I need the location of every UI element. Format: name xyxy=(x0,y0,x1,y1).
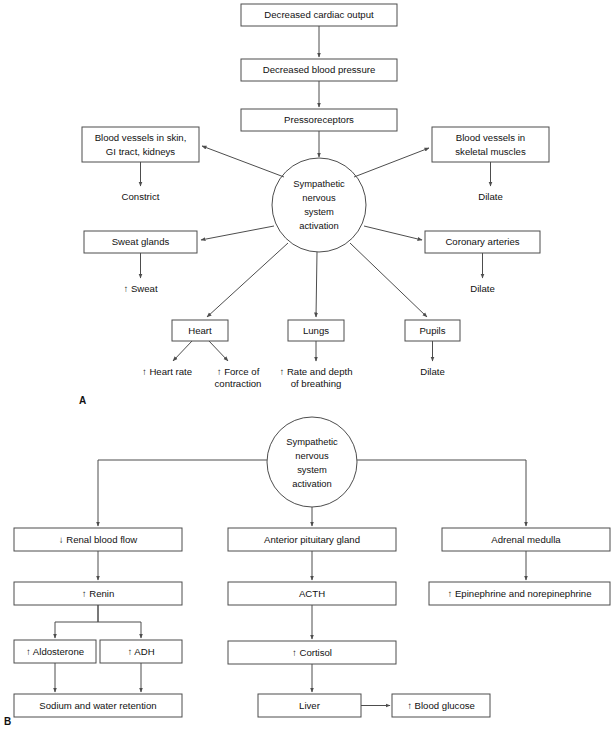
label-renin: ↑ Renin xyxy=(82,588,115,599)
label-blood-vessels-skeletal-line1: Blood vessels in xyxy=(456,132,525,143)
connector-renin-to-aldosterone xyxy=(55,605,98,638)
label-increased-heart-rate: ↑ Heart rate xyxy=(142,366,192,377)
flowchart-figure: Decreased cardiac output Decreased blood… xyxy=(0,0,613,736)
label-anterior-pituitary-gland: Anterior pituitary gland xyxy=(264,534,360,545)
connector-hub-to-blood-vessels-skeletal xyxy=(354,148,429,177)
label-renal-blood-flow: ↓ Renal blood flow xyxy=(59,534,137,545)
hub-label-line2-b: nervous xyxy=(295,450,329,461)
label-dilate-pupils: Dilate xyxy=(420,366,445,377)
hub-label-line3-a: system xyxy=(304,206,334,217)
label-blood-vessels-skeletal-line2: skeletal muscles xyxy=(455,146,526,157)
label-decreased-cardiac-output: Decreased cardiac output xyxy=(264,9,374,20)
connector-hub-to-blood-vessels-skin xyxy=(202,146,284,177)
label-decreased-blood-pressure: Decreased blood pressure xyxy=(263,64,376,75)
label-force-of-contraction-line1: ↑ Force of xyxy=(217,366,260,377)
label-constrict: Constrict xyxy=(122,191,160,202)
label-adrenal-medulla: Adrenal medulla xyxy=(491,534,561,545)
panel-letter-b: B xyxy=(4,716,11,727)
hub-circle-sympathetic-activation-b xyxy=(267,417,357,507)
connector-renin-to-adh xyxy=(98,605,141,638)
hub-label-line1-b: Sympathetic xyxy=(286,436,338,447)
label-lungs: Lungs xyxy=(303,325,329,336)
label-blood-glucose: ↑ Blood glucose xyxy=(407,700,475,711)
connector-hub-to-renal-column xyxy=(98,460,267,526)
panel-letter-a: A xyxy=(79,395,86,406)
connector-hub-to-pupils xyxy=(350,243,427,317)
label-dilate-coronary: Dilate xyxy=(470,283,495,294)
hub-label-line2-a: nervous xyxy=(302,192,336,203)
label-force-of-contraction-line2: contraction xyxy=(215,378,262,389)
label-rate-depth-breathing-line1: ↑ Rate and depth xyxy=(279,366,352,377)
label-pressoreceptors: Pressoreceptors xyxy=(284,114,354,125)
hub-label-line4-b: activation xyxy=(292,478,332,489)
label-adh: ↑ ADH xyxy=(127,646,154,657)
hub-label-line4-a: activation xyxy=(299,220,339,231)
label-liver: Liver xyxy=(299,700,321,711)
hub-circle-sympathetic-activation-a xyxy=(272,158,366,252)
hub-label-line1-a: Sympathetic xyxy=(293,178,345,189)
label-increased-sweat: ↑ Sweat xyxy=(123,283,157,294)
label-pupils: Pupils xyxy=(419,325,445,336)
connector-hub-to-sweat-glands xyxy=(201,226,274,240)
label-rate-depth-breathing-line2: of breathing xyxy=(291,378,342,389)
connector-heart-to-heart-rate xyxy=(173,341,192,361)
label-sweat-glands: Sweat glands xyxy=(112,236,170,247)
connector-hub-to-lungs xyxy=(316,252,317,317)
connector-hub-to-heart xyxy=(207,243,288,317)
flowchart-canvas: Decreased cardiac output Decreased blood… xyxy=(0,0,613,736)
label-blood-vessels-skin-line2: GI tract, kidneys xyxy=(106,146,176,157)
label-epinephrine-norepinephrine: ↑ Epinephrine and norepinephrine xyxy=(447,588,591,599)
label-coronary-arteries: Coronary arteries xyxy=(445,236,519,247)
connector-heart-to-force-contraction xyxy=(209,341,228,361)
label-sodium-water-retention: Sodium and water retention xyxy=(39,700,156,711)
connector-hub-to-adrenal-column xyxy=(357,460,526,526)
label-blood-vessels-skin-line1: Blood vessels in skin, xyxy=(95,132,187,143)
label-cortisol: ↑ Cortisol xyxy=(292,647,332,658)
label-acth: ACTH xyxy=(299,588,325,599)
label-heart: Heart xyxy=(188,325,212,336)
connector-hub-to-coronary-arteries xyxy=(364,226,422,240)
hub-label-line3-b: system xyxy=(297,464,327,475)
label-dilate-skeletal: Dilate xyxy=(478,191,503,202)
label-aldosterone: ↑ Aldosterone xyxy=(26,646,84,657)
